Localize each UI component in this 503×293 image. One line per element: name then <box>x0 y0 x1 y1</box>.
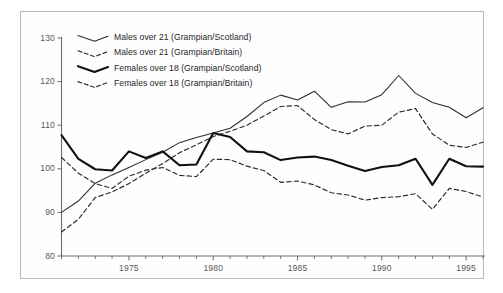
x-tick-label: 1985 <box>278 263 318 273</box>
series-line-0 <box>62 76 484 213</box>
y-tick-label: 120 <box>29 76 55 86</box>
x-tick-label: 1990 <box>362 263 402 273</box>
legend-item-label: Females over 18 (Grampian/Scotland) <box>114 63 261 73</box>
legend-item-label: Males over 21 (Grampian/Scotland) <box>114 32 251 42</box>
series-line-2 <box>62 133 484 185</box>
chart-figure: 8090100110120130 19751980198519901995 Ma… <box>0 0 503 293</box>
y-tick-label: 100 <box>29 163 55 173</box>
x-tick-label: 1995 <box>446 263 486 273</box>
y-tick-label: 130 <box>29 33 55 43</box>
legend-item-label: Females over 18 (Grampian/Britain) <box>114 78 252 88</box>
x-tick-label: 1975 <box>109 263 149 273</box>
y-tick-label: 80 <box>29 251 55 261</box>
chart-plot-area <box>0 0 503 293</box>
y-tick-label: 110 <box>29 120 55 130</box>
y-tick-label: 90 <box>29 207 55 217</box>
x-tick-label: 1980 <box>193 263 233 273</box>
legend-item-label: Males over 21 (Grampian/Britain) <box>114 47 242 57</box>
